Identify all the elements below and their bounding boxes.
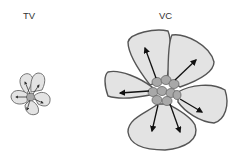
tv-petal-top-right xyxy=(31,73,45,92)
tv-flower xyxy=(11,73,50,115)
diagram-canvas xyxy=(0,0,240,166)
vc-flower xyxy=(105,30,227,150)
vc-center-cluster xyxy=(148,76,181,106)
